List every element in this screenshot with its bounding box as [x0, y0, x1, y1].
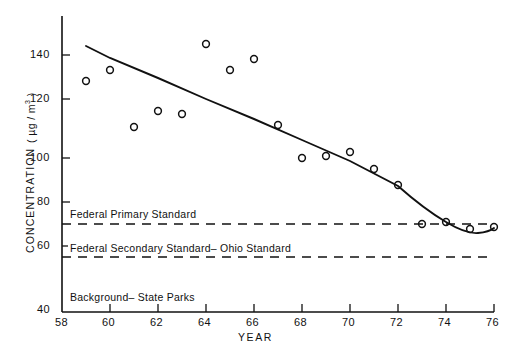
x-tick-label: 70: [342, 316, 355, 328]
y-tick-label: 140: [30, 48, 50, 60]
y-unit-close: ): [25, 92, 37, 99]
federal-secondary-standard-label: Federal Secondary Standard– Ohio Standar…: [68, 242, 293, 254]
chart-figure: 140 120 100 80 60 40 58 60 62 64 66 68 7…: [0, 0, 510, 352]
data-point: [83, 78, 90, 85]
x-tick-label: 64: [198, 316, 211, 328]
x-tick-label: 74: [438, 316, 451, 328]
federal-primary-standard-label: Federal Primary Standard: [68, 208, 198, 220]
trend-curve: [86, 46, 494, 233]
axes: [62, 16, 494, 312]
data-point: [155, 108, 162, 115]
data-point: [299, 155, 306, 162]
y-axis-title: CONCENTRATION: [24, 148, 36, 253]
y-tick-label: 60: [37, 239, 50, 251]
x-tick-label: 58: [55, 316, 68, 328]
y-axis-unit: ( µg / m3 ): [24, 92, 37, 143]
x-tick-label: 76: [486, 316, 499, 328]
x-tick-label: 72: [390, 316, 403, 328]
data-point: [275, 122, 282, 129]
data-point: [467, 226, 474, 233]
data-point: [347, 149, 354, 156]
x-tick-label: 62: [150, 316, 163, 328]
data-point: [251, 56, 258, 63]
data-point: [107, 67, 114, 74]
data-point: [371, 166, 378, 173]
x-tick-label: 66: [246, 316, 259, 328]
x-axis-title: YEAR: [238, 331, 273, 343]
data-point: [491, 224, 498, 231]
y-tick-label: 40: [37, 303, 50, 315]
background-state-parks-label: Background– State Parks: [68, 291, 197, 303]
data-point: [179, 111, 186, 118]
data-point: [131, 124, 138, 131]
data-points: [83, 41, 498, 233]
y-unit-exponent: 3: [24, 100, 31, 104]
x-axis-ticks: [110, 304, 494, 312]
y-unit-text: ( µg / m: [25, 104, 37, 143]
data-point: [323, 153, 330, 160]
y-tick-label: 80: [37, 195, 50, 207]
x-tick-label: 68: [294, 316, 307, 328]
data-point: [203, 41, 210, 48]
x-tick-label: 60: [102, 316, 115, 328]
data-point: [227, 67, 234, 74]
